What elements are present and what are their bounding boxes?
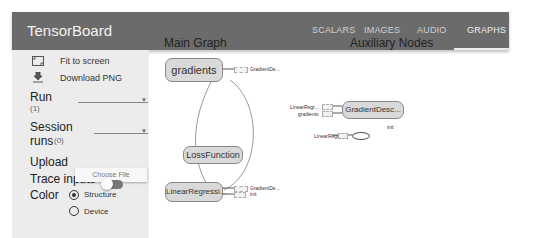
graph-node-linearregression[interactable]: LinearRegressi...	[165, 182, 223, 202]
graph-edges	[12, 12, 509, 238]
graph-node-gradients[interactable]: gradients	[165, 58, 223, 82]
output-label: GradientDe...	[250, 66, 280, 72]
input-label: gradients	[298, 111, 319, 117]
input-label: LinearRegr...	[290, 104, 319, 110]
aux-node-gradientdescent[interactable]: GradientDesc...	[342, 101, 404, 119]
output-label: init	[250, 191, 256, 197]
init-label: init	[387, 124, 393, 130]
tensorboard-app: TensorBoard SCALARS IMAGES AUDIO GRAPHS …	[12, 12, 509, 238]
graph-node-lossfunction[interactable]: LossFunction	[183, 146, 243, 164]
aux-node-init[interactable]	[352, 132, 370, 140]
